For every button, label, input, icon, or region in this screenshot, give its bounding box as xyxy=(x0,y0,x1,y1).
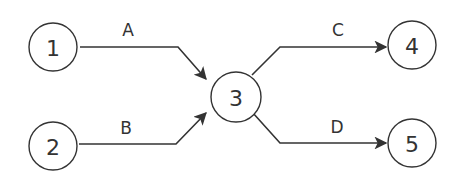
network-diagram: A B C D 1 2 3 4 5 xyxy=(0,0,460,178)
node-label-2: 2 xyxy=(46,135,60,160)
node-label-4: 4 xyxy=(405,34,419,59)
arrow-c xyxy=(252,47,386,75)
edge-d: D xyxy=(253,113,386,143)
edge-c: C xyxy=(252,20,386,75)
edge-label-a: A xyxy=(122,20,134,40)
edge-b: B xyxy=(79,113,206,144)
node-3: 3 xyxy=(211,72,261,122)
node-1: 1 xyxy=(29,23,77,71)
edge-label-d: D xyxy=(330,117,343,137)
node-2: 2 xyxy=(29,122,77,170)
edge-label-b: B xyxy=(120,118,132,138)
node-label-5: 5 xyxy=(405,132,419,157)
edge-label-c: C xyxy=(332,20,344,40)
arrow-b xyxy=(79,113,206,144)
arrow-a xyxy=(80,47,206,79)
arrow-d xyxy=(253,113,386,143)
node-4: 4 xyxy=(388,21,436,69)
node-5: 5 xyxy=(388,119,436,167)
edge-a: A xyxy=(80,20,206,79)
node-label-3: 3 xyxy=(229,86,243,111)
node-label-1: 1 xyxy=(46,36,60,61)
